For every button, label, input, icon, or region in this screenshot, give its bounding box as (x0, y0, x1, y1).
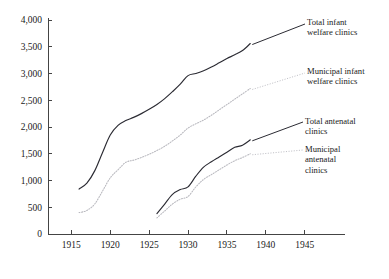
x-tick-label: 1935 (217, 240, 236, 250)
leader-line-2 (252, 122, 303, 141)
y-tick-label: 4,000 (21, 15, 43, 25)
annotation-municipal-antenatal-clinics: Municipal antenatal clinics (305, 144, 365, 175)
y-axis: 05001,0001,5002,0002,5003,0003,5004,000 (21, 15, 52, 239)
y-tick-label: 3,000 (21, 69, 43, 79)
x-tick-label: 1930 (179, 240, 198, 250)
annotation-municipal-infant-welfare-clinics: Municipal infant welfare clinics (307, 66, 387, 87)
x-tick-label: 1945 (295, 240, 314, 250)
x-tick-label: 1925 (140, 240, 159, 250)
y-tick-label: 0 (37, 229, 42, 239)
series-line-1 (79, 88, 250, 212)
annotation-total-infant-welfare-clinics: Total infant welfare clinics (307, 17, 385, 38)
series-line-0 (79, 44, 250, 190)
series-line-2 (157, 140, 250, 214)
leader-lines (252, 24, 305, 155)
x-tick-label: 1920 (101, 240, 120, 250)
y-tick-label: 3,500 (21, 42, 43, 52)
annotation-total-antenatal-clinics: Total antenatal clinics (305, 116, 385, 137)
y-tick-label: 2,000 (21, 122, 43, 132)
y-tick-label: 500 (28, 203, 43, 213)
x-axis: 1915192019251930193519401945 (48, 230, 345, 250)
leader-line-0 (252, 24, 305, 45)
line-chart: 05001,0001,5002,0002,5003,0003,5004,000 … (0, 0, 389, 279)
x-tick-label: 1940 (256, 240, 275, 250)
plot-area: 05001,0001,5002,0002,5003,0003,5004,000 … (0, 0, 389, 279)
series-lines (79, 44, 250, 218)
series-line-3 (157, 154, 250, 218)
y-tick-label: 1,500 (21, 149, 43, 159)
x-tick-label: 1915 (62, 240, 81, 250)
leader-line-1 (252, 73, 305, 89)
leader-line-3 (252, 150, 303, 155)
y-tick-label: 1,000 (21, 176, 43, 186)
y-tick-label: 2,500 (21, 96, 43, 106)
